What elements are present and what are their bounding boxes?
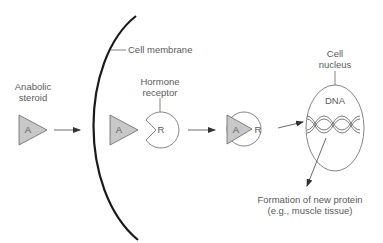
steroid-symbol-inside: A [113,124,125,135]
formation-label: Formation of new protein (e.g., muscle t… [240,194,380,216]
steroid-symbol-outside: A [22,124,34,135]
arrow-to-nucleus [278,122,303,128]
label-line: Cell [310,48,360,59]
dna-label: DNA [320,95,350,106]
label-line: Anabolic [8,81,58,92]
receptor-symbol: R [155,124,167,135]
label-line: receptor [135,87,185,98]
cell-nucleus-label: Cell nucleus [310,48,360,70]
anabolic-steroid-label: Anabolic steroid [8,81,58,103]
label-line: nucleus [310,59,360,70]
complex-receptor-symbol: R [252,124,264,135]
label-line: Hormone [135,76,185,87]
label-line: Formation of new protein [240,194,380,205]
label-line: (e.g., muscle tissue) [240,205,380,216]
cell-membrane-label: Cell membrane [128,44,192,55]
complex-steroid-symbol: A [230,124,242,135]
label-line: steroid [8,92,58,103]
hormone-receptor-label: Hormone receptor [135,76,185,98]
